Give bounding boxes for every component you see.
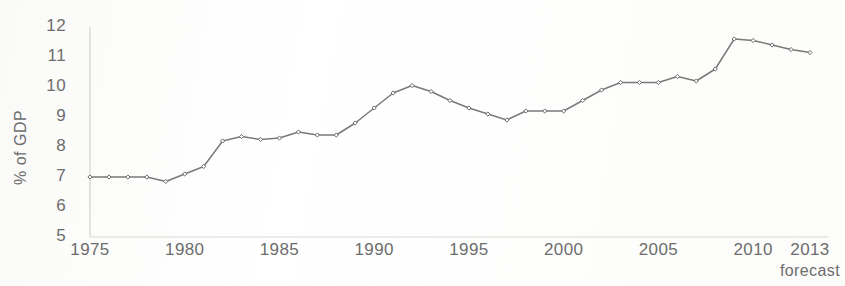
data-point-marker (770, 43, 774, 47)
x-axis-tick-label: 1985 (260, 240, 299, 260)
y-axis-tick-label: 5 (34, 226, 66, 246)
data-point-marker (618, 80, 622, 84)
data-point-marker (789, 47, 793, 51)
series-group (88, 37, 812, 184)
data-point-marker (88, 175, 92, 179)
data-point-marker (145, 175, 149, 179)
data-point-marker (656, 80, 660, 84)
x-axis-tick-label: 1995 (449, 240, 488, 260)
data-markers (88, 37, 812, 184)
x-axis-tick-label: 2000 (544, 240, 583, 260)
data-point-marker (808, 50, 812, 54)
y-axis-tick-label: 7 (34, 166, 66, 186)
y-axis-tick-label: 6 (34, 196, 66, 216)
data-point-marker (486, 112, 490, 116)
chart-container: % of GDP 12111098765 1975198019851990199… (0, 0, 845, 286)
data-point-marker (164, 179, 168, 183)
data-point-marker (126, 175, 130, 179)
line-chart-plot (0, 0, 845, 286)
data-point-marker (675, 74, 679, 78)
data-point-marker (410, 83, 414, 87)
x-axis-tick-label: 2005 (639, 240, 678, 260)
data-point-marker (315, 133, 319, 137)
y-axis-tick-label: 11 (34, 46, 66, 66)
data-point-marker (183, 172, 187, 176)
y-axis-title: % of GDP (12, 110, 30, 185)
data-point-marker (258, 137, 262, 141)
y-axis-tick-label: 12 (34, 16, 66, 36)
x-axis-tick-label: 2013 (790, 240, 829, 260)
forecast-annotation: forecast (780, 262, 840, 280)
axes-group (90, 27, 828, 237)
x-axis-tick-label: 1975 (70, 240, 109, 260)
data-point-marker (277, 136, 281, 140)
data-point-marker (239, 134, 243, 138)
data-point-marker (296, 130, 300, 134)
y-axis-tick-label: 10 (34, 76, 66, 96)
data-point-marker (637, 80, 641, 84)
data-point-marker (543, 109, 547, 113)
y-axis-tick-label: 9 (34, 106, 66, 126)
data-point-marker (467, 106, 471, 110)
x-axis-tick-label: 1980 (165, 240, 204, 260)
data-point-marker (751, 38, 755, 42)
x-axis-tick-label: 2010 (733, 240, 772, 260)
data-point-marker (107, 175, 111, 179)
y-axis-tick-label: 8 (34, 136, 66, 156)
x-axis-tick-label: 1990 (354, 240, 393, 260)
data-line (90, 39, 810, 182)
